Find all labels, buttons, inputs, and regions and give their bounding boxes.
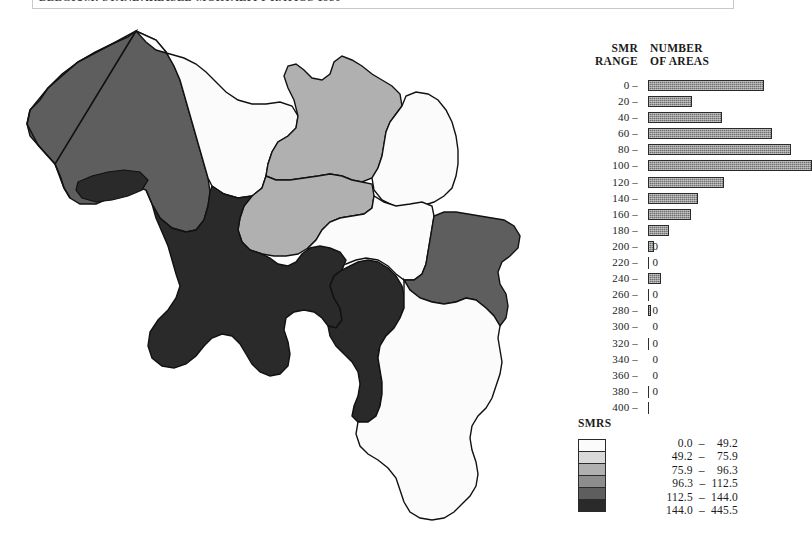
histogram-count-label: 0	[644, 369, 658, 381]
histogram-row: 400 –	[560, 400, 769, 416]
histogram-range-label: 200 –	[568, 240, 638, 252]
histogram-range-label: 220 –	[568, 256, 638, 268]
histogram-bar	[648, 257, 649, 269]
histogram-rows: 0 –020 –140 –160 –180 –2100 –1120 –1140 …	[560, 78, 769, 416]
histogram-header-num-line2: OF AREAS	[650, 55, 760, 68]
smrs-legend-swatches	[578, 439, 606, 512]
histogram-bar	[648, 193, 698, 204]
histogram-row: 300 –0	[560, 319, 769, 335]
histogram-row: 140 –1	[560, 191, 769, 207]
smrs-legend-swatch	[579, 452, 605, 464]
histogram-row: 200 –0	[560, 239, 769, 255]
histogram-bar	[648, 96, 692, 107]
histogram-bar	[648, 305, 651, 316]
histogram-bar	[648, 289, 649, 301]
smrs-legend-label: 0.0 – 49.2	[616, 437, 766, 450]
smrs-legend-title: SMRS	[578, 417, 612, 429]
histogram-row: 160 –0	[560, 207, 769, 223]
histogram-range-label: 80 –	[568, 143, 638, 155]
histogram-bar	[648, 80, 764, 91]
histogram-row: 40 –1	[560, 110, 769, 126]
histogram-count-label: 0	[644, 337, 658, 349]
histogram-range-label: 140 –	[568, 192, 638, 204]
smrs-legend: SMRS 0.0 – 49.2 49.2 – 75.9 75.9 – 96.3 …	[560, 415, 769, 535]
histogram-bar	[648, 128, 772, 139]
histogram-row: 120 –1	[560, 175, 769, 191]
histogram-range-label: 380 –	[568, 385, 638, 397]
histogram-row: 60 –1	[560, 126, 769, 142]
histogram-row: 320 –0	[560, 336, 769, 352]
histogram-bar	[648, 177, 724, 188]
smrs-legend-label: 75.9 – 96.3	[616, 464, 766, 477]
histogram-row: 0 –0	[560, 78, 769, 94]
histogram-header-smr-line2: RANGE	[576, 55, 638, 68]
smr-histogram: SMR RANGE NUMBER OF AREAS 0 –020 –140 –1…	[560, 34, 769, 364]
histogram-row: 240 –0	[560, 271, 769, 287]
histogram-bar	[648, 241, 654, 252]
histogram-range-label: 160 –	[568, 208, 638, 220]
histogram-range-label: 60 –	[568, 127, 638, 139]
histogram-row: 380 –0	[560, 384, 769, 400]
histogram-bar	[648, 209, 691, 220]
histogram-range-label: 280 –	[568, 304, 638, 316]
smrs-legend-swatch	[579, 488, 605, 500]
histogram-range-label: 180 –	[568, 224, 638, 236]
smrs-legend-label: 96.3 – 112.5	[616, 477, 766, 490]
histogram-range-label: 120 –	[568, 176, 638, 188]
histogram-row: 260 –0	[560, 287, 769, 303]
histogram-row: 180 –1	[560, 223, 769, 239]
histogram-header-num-line1: NUMBER	[650, 42, 760, 55]
smrs-legend-swatch	[579, 464, 605, 476]
smrs-legend-swatch	[579, 500, 605, 511]
histogram-row: 80 –2	[560, 142, 769, 158]
histogram-row: 280 –0	[560, 303, 769, 319]
histogram-header-smr-line1: SMR	[576, 42, 638, 55]
histogram-bar	[648, 386, 649, 398]
histogram-range-label: 300 –	[568, 320, 638, 332]
histogram-range-label: 320 –	[568, 337, 638, 349]
histogram-row: 20 –1	[560, 94, 769, 110]
histogram-range-label: 340 –	[568, 353, 638, 365]
close-icon[interactable]: ✕	[719, 0, 727, 2]
smrs-legend-label: 49.2 – 75.9	[616, 450, 766, 463]
page-title: BELGIUM: STANDARDISED MORTALITY RATIOS 1…	[39, 0, 341, 3]
histogram-bar	[648, 144, 791, 155]
histogram-count-label: 0	[644, 256, 658, 268]
histogram-range-label: 100 –	[568, 159, 638, 171]
histogram-bar	[648, 160, 812, 171]
histogram-count-label: 0	[644, 353, 658, 365]
smrs-legend-label: 144.0 – 445.5	[616, 504, 766, 517]
histogram-count-label: 0	[644, 320, 658, 332]
window-title-bar: BELGIUM: STANDARDISED MORTALITY RATIOS 1…	[32, 0, 734, 9]
histogram-row: 100 –1	[560, 158, 769, 174]
smrs-legend-swatch	[579, 476, 605, 488]
histogram-header-smr-range: SMR RANGE	[576, 42, 638, 68]
histogram-range-label: 360 –	[568, 369, 638, 381]
histogram-bar	[648, 338, 649, 350]
histogram-range-label: 260 –	[568, 288, 638, 300]
smrs-legend-swatch	[579, 440, 605, 452]
histogram-bar	[648, 112, 722, 123]
histogram-range-label: 0 –	[568, 79, 638, 91]
histogram-range-label: 20 –	[568, 95, 638, 107]
histogram-header-number-of-areas: NUMBER OF AREAS	[650, 42, 760, 68]
histogram-row: 340 –0	[560, 352, 769, 368]
smrs-legend-label: 112.5 – 144.0	[616, 491, 766, 504]
histogram-range-label: 400 –	[568, 401, 638, 413]
belgium-map-svg	[0, 18, 560, 538]
histogram-count-label: 0	[644, 385, 658, 397]
histogram-range-label: 40 –	[568, 111, 638, 123]
histogram-bar	[648, 402, 649, 414]
histogram-bar	[648, 273, 661, 284]
histogram-bar	[648, 225, 669, 236]
histogram-row: 220 –0	[560, 255, 769, 271]
histogram-count-label: 0	[644, 288, 658, 300]
histogram-row: 360 –0	[560, 368, 769, 384]
choropleth-map	[0, 18, 560, 538]
histogram-count-label: 0	[644, 304, 658, 316]
histogram-range-label: 240 –	[568, 272, 638, 284]
smrs-legend-labels: 0.0 – 49.2 49.2 – 75.9 75.9 – 96.3 96.3 …	[616, 437, 766, 517]
